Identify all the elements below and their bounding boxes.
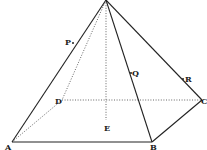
label-P: P [65,37,71,47]
edge-OB [106,0,152,142]
label-R: R [185,74,192,84]
label-A: A [4,142,12,150]
label-Q: Q [132,68,139,78]
label-E: E [104,123,110,133]
point-R-marker [182,78,184,80]
edge-BC [152,100,202,142]
pyramid-svg: A B C D E P Q R [0,0,207,150]
label-C: C [201,96,207,106]
point-P-marker [72,42,74,44]
edge-OC [106,0,202,100]
edge-AD [12,100,62,142]
pyramid-diagram: A B C D E P Q R [0,0,207,150]
edge-OA [12,0,106,142]
edge-OD [62,0,106,100]
label-D: D [55,96,62,106]
label-B: B [150,142,157,150]
